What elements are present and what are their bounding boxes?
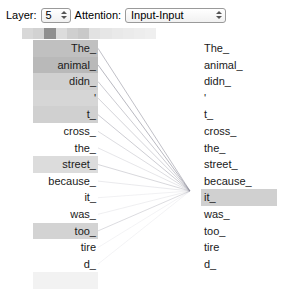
target-token-label: didn_ [201, 73, 277, 90]
target-token-label: was_ [201, 206, 277, 223]
attention-weight-bar [33, 272, 98, 289]
attention-edge [98, 65, 190, 191]
source-token-label: because_ [33, 173, 98, 190]
heat-cell[interactable] [78, 28, 89, 39]
token-row[interactable]: street_ [201, 156, 277, 173]
source-token-label: d_ [33, 256, 98, 273]
source-token-label: was_ [33, 206, 98, 223]
token-row[interactable]: ' [33, 90, 98, 107]
token-row[interactable] [33, 272, 98, 289]
heat-cell[interactable] [33, 28, 44, 39]
attention-edge [98, 191, 190, 231]
source-token-label: too_ [33, 223, 98, 240]
attention-edge [98, 148, 190, 191]
source-token-column: The_animal_didn_'t_cross_the_street_beca… [33, 40, 98, 289]
attention-select-value: Input-Input [126, 9, 198, 22]
source-token-label: didn_ [33, 73, 98, 90]
target-token-label: it_ [201, 189, 277, 206]
layer-label: Layer: [6, 6, 37, 24]
token-row[interactable]: too_ [201, 223, 277, 240]
target-token-label: ' [201, 90, 277, 107]
token-row[interactable]: cross_ [33, 123, 98, 140]
attention-edge [98, 181, 190, 191]
toolbar: Layer: 5 Attention: Input-Input [6, 6, 226, 24]
heat-cell[interactable] [22, 28, 33, 39]
token-row[interactable]: the_ [201, 140, 277, 157]
source-token-label: tire [33, 239, 98, 256]
token-row[interactable]: tire [201, 239, 277, 256]
token-row[interactable]: t_ [33, 106, 98, 123]
target-token-label: t_ [201, 106, 277, 123]
token-row[interactable]: was_ [201, 206, 277, 223]
source-token-label: The_ [33, 40, 98, 57]
target-token-column: The_animal_didn_'t_cross_the_street_beca… [201, 40, 277, 272]
target-token-label: tire [201, 239, 277, 256]
token-row[interactable]: d_ [201, 256, 277, 273]
token-row[interactable]: cross_ [201, 123, 277, 140]
source-token-label: it_ [33, 189, 98, 206]
heat-cell[interactable] [100, 28, 111, 39]
heat-cell[interactable] [123, 28, 134, 39]
token-row[interactable]: the_ [33, 140, 98, 157]
attention-edge [98, 131, 190, 191]
token-row[interactable]: d_ [33, 256, 98, 273]
source-token-label: street_ [33, 156, 98, 173]
attention-edge [98, 48, 190, 191]
heat-cell[interactable] [56, 28, 67, 39]
target-token-label: cross_ [201, 123, 277, 140]
attention-edge [98, 165, 190, 192]
heat-cell[interactable] [112, 28, 123, 39]
target-token-label: too_ [201, 223, 277, 240]
layer-select[interactable]: 5 [41, 8, 71, 23]
token-row[interactable]: animal_ [201, 57, 277, 74]
token-row[interactable]: The_ [33, 40, 98, 57]
token-row[interactable]: tire [33, 239, 98, 256]
attention-edge [98, 115, 190, 191]
token-row[interactable]: was_ [33, 206, 98, 223]
attention-label: Attention: [75, 6, 121, 24]
source-token-label: ' [33, 90, 98, 107]
attention-edge [98, 191, 190, 214]
token-row[interactable]: didn_ [201, 73, 277, 90]
attention-edge [98, 191, 190, 264]
token-row[interactable]: because_ [201, 173, 277, 190]
token-row[interactable]: The_ [201, 40, 277, 57]
source-token-label: animal_ [33, 57, 98, 74]
source-token-label: t_ [33, 106, 98, 123]
token-row[interactable]: didn_ [33, 73, 98, 90]
heat-cell[interactable] [44, 28, 55, 39]
target-token-label: d_ [201, 256, 277, 273]
token-row[interactable]: because_ [33, 173, 98, 190]
token-row[interactable]: it_ [33, 189, 98, 206]
token-row[interactable]: it_ [201, 189, 277, 206]
heat-cell[interactable] [67, 28, 78, 39]
target-token-label: street_ [201, 156, 277, 173]
token-row[interactable]: street_ [33, 156, 98, 173]
attention-stepper-icon[interactable] [216, 11, 222, 19]
token-row[interactable]: too_ [33, 223, 98, 240]
source-token-label: cross_ [33, 123, 98, 140]
attention-edge [98, 98, 190, 191]
target-token-label: the_ [201, 140, 277, 157]
target-token-label: because_ [201, 173, 277, 190]
attention-edge [98, 82, 190, 192]
target-token-label: animal_ [201, 57, 277, 74]
token-row[interactable]: ' [201, 90, 277, 107]
target-token-label: The_ [201, 40, 277, 57]
layer-stepper-icon[interactable] [61, 11, 67, 19]
attention-edge [98, 191, 190, 248]
heat-cell[interactable] [145, 28, 156, 39]
heat-cell[interactable] [134, 28, 145, 39]
token-heat-strip [22, 28, 156, 39]
token-row[interactable]: t_ [201, 106, 277, 123]
heat-cell[interactable] [89, 28, 100, 39]
attention-select[interactable]: Input-Input [125, 8, 226, 23]
attention-edge [98, 191, 190, 198]
token-row[interactable]: animal_ [33, 57, 98, 74]
source-token-label: the_ [33, 140, 98, 157]
